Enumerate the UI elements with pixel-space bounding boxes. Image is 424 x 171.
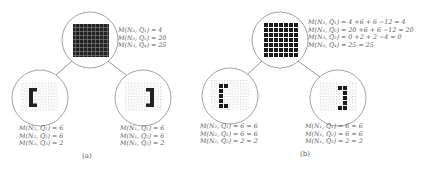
equation: M(N₁, Q₂) = 6 = 6: [305, 130, 363, 138]
equation: M(N₃, Q₃) = 0 +2 + 2 −4 = 0: [308, 33, 414, 41]
node-a-right: [115, 70, 171, 126]
equation: M(N₃, Q₂) = 20: [118, 34, 166, 42]
caption-b: (b): [300, 150, 310, 158]
equations-a-right: M(N₁, Q₁) = 6 M(N₁, Q₂) = 6 M(N₁, Q₃) = …: [120, 124, 164, 147]
edge-b-left: [247, 61, 262, 75]
equation: M(N₂, Q₃) = 2 = 2: [200, 137, 258, 145]
equations-a-top: M(N₃, Q₁) = 4 M(N₃, Q₂) = 20 M(N₃, Q₄) =…: [118, 26, 166, 49]
equations-b-left: M(N₂, Q₁) = 6 = 6 M(N₂, Q₂) = 6 = 6 M(N₂…: [200, 122, 258, 145]
block-grid-pattern: [264, 23, 298, 57]
node-b-top: [252, 12, 308, 68]
equations-a-left: M(N₂, Q₁) = 6 M(N₂, Q₂) = 6 M(N₂, Q₃) = …: [19, 124, 63, 147]
equation: M(N₁, Q₃) = 2: [120, 139, 164, 147]
equation: M(N₂, Q₃) = 2: [19, 139, 63, 147]
equations-b-right: M(N₁, Q₁) = 6 = 6 M(N₁, Q₂) = 6 = 6 M(N₁…: [305, 122, 363, 145]
equations-b-top: M(N₃, Q₁) = 4 +6 + 6 −12 = 4 M(N₃, Q₂) =…: [308, 18, 414, 48]
caption-a: (a): [82, 152, 92, 160]
equation: M(N₃, Q₄) = 25 = 25: [308, 41, 414, 49]
equation: M(N₁, Q₃) = 2 = 2: [305, 137, 363, 145]
equation: M(N₂, Q₂) = 6: [19, 132, 63, 140]
edge-b-right: [298, 61, 320, 77]
node-b-left: [202, 68, 258, 124]
equation: M(N₃, Q₂) = 20 +6 + 6 −12 = 20: [308, 26, 414, 34]
equation: M(N₃, Q₁) = 4 +6 + 6 −12 = 4: [308, 18, 414, 26]
node-b-right: [310, 70, 366, 126]
equation: M(N₃, Q₁) = 4: [118, 26, 166, 34]
node-a-top: [62, 12, 118, 68]
equation: M(N₁, Q₁) = 6 = 6: [305, 122, 363, 130]
equation: M(N₁, Q₁) = 6: [120, 124, 164, 132]
full-grid-pattern: [73, 24, 109, 57]
node-a-left: [12, 70, 68, 126]
edge-a-right: [108, 61, 126, 75]
equation: M(N₃, Q₄) = 25: [118, 41, 166, 49]
equation: M(N₂, Q₂) = 6 = 6: [200, 130, 258, 138]
equation: M(N₂, Q₁) = 6: [19, 124, 63, 132]
edge-a-left: [56, 61, 72, 75]
equation: M(N₁, Q₂) = 6: [120, 132, 164, 140]
equation: M(N₂, Q₁) = 6 = 6: [200, 122, 258, 130]
